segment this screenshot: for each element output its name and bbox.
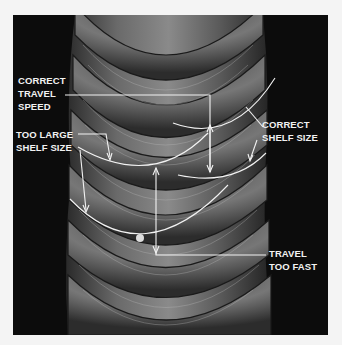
label-too-large-shelf-size: TOO LARGE SHELF SIZE (16, 128, 73, 154)
label-line: TRAVEL (269, 247, 317, 260)
label-line: CORRECT (18, 74, 66, 87)
label-line: SHELF SIZE (262, 131, 318, 144)
label-line: SHELF SIZE (16, 141, 73, 154)
weld-bead-photo: CORRECT TRAVEL SPEED TOO LARGE SHELF SIZ… (13, 15, 328, 335)
label-line: TOO FAST (269, 260, 317, 273)
label-correct-shelf-size: CORRECT SHELF SIZE (262, 118, 318, 144)
porosity-spot (136, 234, 144, 242)
label-line: SPEED (18, 100, 66, 113)
label-line: TOO LARGE (16, 128, 73, 141)
label-line: CORRECT (262, 118, 318, 131)
label-correct-travel-speed: CORRECT TRAVEL SPEED (18, 74, 66, 113)
label-travel-too-fast: TRAVEL TOO FAST (269, 247, 317, 273)
label-line: TRAVEL (18, 87, 66, 100)
weld-bead-illustration (13, 15, 328, 335)
